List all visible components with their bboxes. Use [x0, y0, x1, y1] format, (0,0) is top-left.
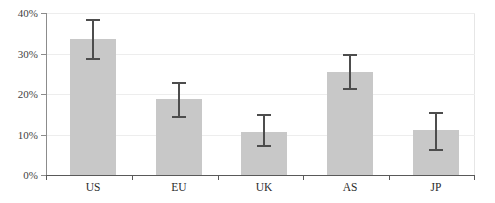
x-tick-4 [389, 176, 390, 180]
y-axis-label-20: 20% [18, 89, 38, 100]
errorbar-stem [349, 54, 351, 88]
errorbar-stem [178, 82, 180, 116]
errorbar-cap-lower [343, 88, 357, 90]
y-axis-line [46, 13, 47, 175]
x-tick-2 [218, 176, 219, 180]
x-tick-start [46, 176, 47, 180]
bar-us[interactable] [70, 39, 116, 175]
errorbar-stem [435, 112, 437, 148]
y-axis-label-10: 10% [18, 130, 38, 141]
y-axis-label-0: 0% [23, 170, 38, 181]
x-tick-end [474, 176, 475, 180]
gridline-40 [46, 13, 475, 14]
errorbar-cap-lower [257, 145, 271, 147]
errorbar-cap-lower [86, 58, 100, 60]
x-axis-label-jp: JP [396, 181, 476, 195]
x-axis-label-eu: EU [139, 181, 219, 195]
x-axis-line [46, 175, 475, 176]
bar-chart: 40% 30% 20% 10% 0% US EU [0, 0, 495, 203]
y-tick-40 [41, 13, 46, 14]
y-tick-20 [41, 94, 46, 95]
errorbar-stem [263, 114, 265, 144]
x-tick-3 [303, 176, 304, 180]
errorbar-cap-lower [429, 149, 443, 151]
x-tick-1 [132, 176, 133, 180]
y-tick-30 [41, 54, 46, 55]
x-axis-label-as: AS [310, 181, 390, 195]
y-tick-10 [41, 135, 46, 136]
errorbar-cap-lower [172, 116, 186, 118]
x-axis-label-uk: UK [224, 181, 304, 195]
y-axis-label-40: 40% [18, 8, 38, 19]
errorbar-stem [92, 19, 94, 57]
x-axis-label-us: US [53, 181, 133, 195]
y-axis-label-30: 30% [18, 49, 38, 60]
